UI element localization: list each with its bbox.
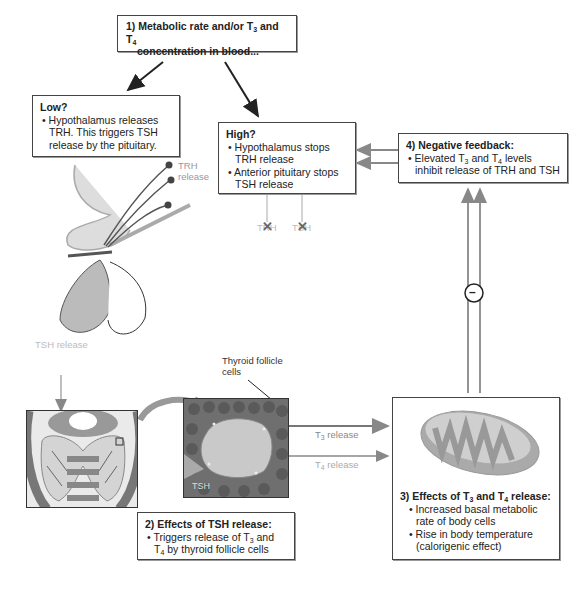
step3-bullet-1: • Increased basal metabolic rate of body… — [400, 503, 552, 528]
t3-release-label: T3 release — [315, 429, 359, 440]
thyroid-follicle-label: Thyroid follicle cells — [222, 355, 302, 377]
step3-box: 3) Effects of T3 and T4 release: • Incre… — [392, 397, 560, 560]
neck-thyroid-image — [26, 410, 138, 508]
mitochondrion-illustration — [400, 398, 554, 490]
tsh-image-label: TSH — [192, 481, 210, 491]
thyroid-follicle-image: TSH — [183, 398, 289, 498]
t4-release-label: T4 release — [315, 459, 359, 470]
tsh-release-label: TSH release — [35, 339, 88, 350]
trh-release-label: TRH release — [178, 160, 209, 182]
step3-bullet-2: • Rise in body temperature (calorigenic … — [400, 528, 552, 553]
step2-box: 2) Effects of TSH release: • Triggers re… — [137, 512, 295, 560]
step2-bullet: • Triggers release of T3 and T4 by thyro… — [145, 531, 287, 556]
step3-title: 3) Effects of T3 and T4 release: — [400, 490, 552, 503]
step2-title: 2) Effects of TSH release: — [145, 518, 287, 531]
